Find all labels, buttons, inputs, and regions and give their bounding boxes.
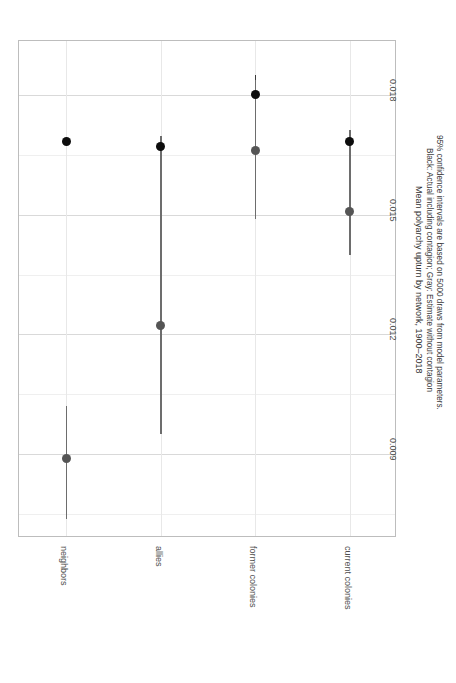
x-axis-category-label: neighbors [59,546,69,586]
y-axis-tick-label: 0.009 [388,438,398,461]
plot-panel [18,40,396,537]
data-point [62,454,71,463]
gridline-major [19,95,395,96]
y-axis-tick-label: 0.015 [388,199,398,222]
y-axis-tick-label: 0.018 [388,79,398,102]
gridline-major [19,334,395,335]
x-axis-category-label: former colonies [248,546,258,608]
error-bar [349,130,351,256]
error-bar [160,136,162,435]
data-point [251,146,260,155]
page-title: Mean polyarchy upturn by network, 1900–2… [414,186,424,374]
data-point [156,142,165,151]
chart-figure: 0.0180.0150.0120.009 neighborsalliesform… [0,0,456,683]
caption-line-ci-note: 95% confidence intervals are based on 50… [435,135,444,410]
gridline-category [350,41,351,536]
y-axis-tick-label: 0.012 [388,318,398,341]
gridline-minor [19,155,395,156]
gridline-minor [19,275,395,276]
gridline-minor [19,394,395,395]
gridline-major [19,454,395,455]
data-point [345,137,354,146]
error-bar [66,406,68,519]
data-point [62,137,71,146]
x-axis-category-label: current colonies [343,546,353,610]
x-axis-category-label: allies [154,546,164,567]
caption-line-legend: Black: Actual including contagion; Gray:… [425,148,434,392]
data-point [251,90,260,99]
gridline-minor [19,514,395,515]
data-point [156,321,165,330]
gridline-major [19,215,395,216]
